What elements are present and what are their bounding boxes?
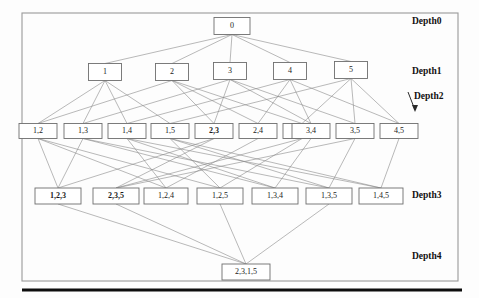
- lattice-edge: [170, 139, 329, 189]
- node-label: 4: [288, 66, 292, 75]
- node-label: 1,4: [122, 126, 132, 135]
- depth-label-depth0: Depth0: [412, 16, 442, 26]
- node-label: 2,3: [209, 126, 219, 135]
- lattice-node[interactable]: 1,3,5: [306, 188, 352, 204]
- node-label: 4,5: [394, 126, 404, 135]
- lattice-node[interactable]: 2,3: [195, 124, 233, 139]
- node-label: 3: [228, 66, 232, 75]
- lattice-edge: [172, 81, 302, 124]
- lattice-node[interactable]: 3,5: [336, 124, 374, 139]
- lattice-edge: [351, 79, 399, 124]
- lattice-edge: [351, 79, 355, 124]
- lattice-node[interactable]: 4,5: [380, 124, 418, 139]
- lattice-edge: [258, 80, 290, 124]
- node-label: 1,3,4: [267, 191, 283, 200]
- lattice-edge: [83, 139, 275, 189]
- nodes-layer: 0123451,21,31,41,52,32,42,53,43,54,51,2,…: [19, 18, 418, 281]
- node-label: 2: [170, 67, 174, 76]
- node-label: 2,4: [253, 126, 263, 135]
- lattice-edge: [38, 81, 105, 124]
- node-label: 1,2,4: [158, 191, 174, 200]
- lattice-edge: [116, 139, 355, 189]
- lattice-edge: [290, 80, 399, 124]
- depth-label-depth4: Depth4: [412, 251, 442, 261]
- lattice-edge: [170, 79, 351, 124]
- lattice-diagram: 0123451,21,31,41,52,32,42,53,43,54,51,2,…: [0, 0, 479, 298]
- lattice-edge: [172, 35, 232, 64]
- lattice-node[interactable]: 1,2,3: [35, 188, 81, 204]
- diagram-frame: [22, 13, 458, 281]
- lattice-node[interactable]: 2: [156, 64, 189, 81]
- depth-label-depth2: Depth2: [414, 91, 444, 101]
- lattice-edge: [83, 139, 329, 189]
- lattice-node[interactable]: 3,4: [292, 124, 330, 139]
- lattice-edge: [381, 139, 399, 189]
- lattice-node[interactable]: 2,3,1,5: [222, 264, 270, 280]
- lattice-edge: [246, 204, 329, 264]
- node-label: 1,2,5: [212, 191, 228, 200]
- node-label: 1,2,3: [50, 191, 66, 200]
- lattice-node[interactable]: 1,2: [19, 124, 57, 139]
- lattice-edge: [58, 204, 246, 264]
- node-label: 1,4,5: [373, 191, 389, 200]
- depth2-arrow-head: [412, 105, 418, 112]
- lattice-edge: [83, 81, 105, 124]
- lattice-edge: [116, 204, 246, 264]
- lattice-edge: [220, 139, 302, 189]
- lattice-edge: [230, 80, 355, 124]
- node-label: 2,3,1,5: [235, 267, 257, 276]
- lattice-edge: [172, 81, 258, 124]
- lattice-edge: [214, 80, 230, 124]
- node-label: 2,3,5: [108, 191, 124, 200]
- lattice-node[interactable]: 0: [214, 18, 250, 35]
- lattice-edge: [105, 81, 170, 124]
- lattice-edge: [116, 139, 302, 189]
- lattice-node[interactable]: 5: [335, 62, 368, 79]
- lattice-node[interactable]: 1,5: [151, 124, 189, 139]
- node-label: 0: [230, 21, 234, 30]
- node-label: 1: [103, 67, 107, 76]
- node-label: 1,5: [165, 126, 175, 135]
- lattice-node[interactable]: 1,3,4: [252, 188, 298, 204]
- node-label: 1,2: [33, 126, 43, 135]
- lattice-edge: [230, 35, 232, 63]
- lattice-edge: [232, 35, 290, 63]
- lattice-edge: [58, 139, 83, 189]
- lattice-figure-page: 0123451,21,31,41,52,32,42,53,43,54,51,2,…: [0, 0, 479, 298]
- lattice-node[interactable]: 1,4,5: [359, 188, 403, 204]
- lattice-node[interactable]: 2,4: [239, 124, 277, 139]
- lattice-node[interactable]: 3: [214, 63, 247, 80]
- node-label: 1,3: [78, 126, 88, 135]
- lattice-node[interactable]: 4: [274, 63, 307, 80]
- lattice-edge: [38, 139, 58, 189]
- lattice-node[interactable]: 1: [89, 64, 122, 81]
- depth-label-depth1: Depth1: [412, 66, 442, 76]
- lattice-edge: [220, 204, 246, 264]
- node-label: 5: [349, 65, 353, 74]
- lattice-edge: [105, 81, 127, 124]
- lattice-node[interactable]: 1,4: [108, 124, 146, 139]
- lattice-node[interactable]: 1,2,5: [197, 188, 243, 204]
- node-label: 3,4: [306, 126, 316, 135]
- lattice-node[interactable]: 2,3,5: [93, 188, 139, 204]
- lattice-node[interactable]: 1,2,4: [144, 188, 188, 204]
- lattice-node[interactable]: 1,3: [64, 124, 102, 139]
- node-label: 1,3,5: [321, 191, 337, 200]
- lattice-edge: [105, 35, 232, 64]
- lattice-edge: [230, 80, 311, 124]
- lattice-edge: [38, 139, 220, 189]
- lattice-edge: [232, 35, 351, 62]
- depth-label-depth3: Depth3: [412, 190, 442, 200]
- lattice-edge: [58, 139, 214, 189]
- node-label: 3,5: [350, 126, 360, 135]
